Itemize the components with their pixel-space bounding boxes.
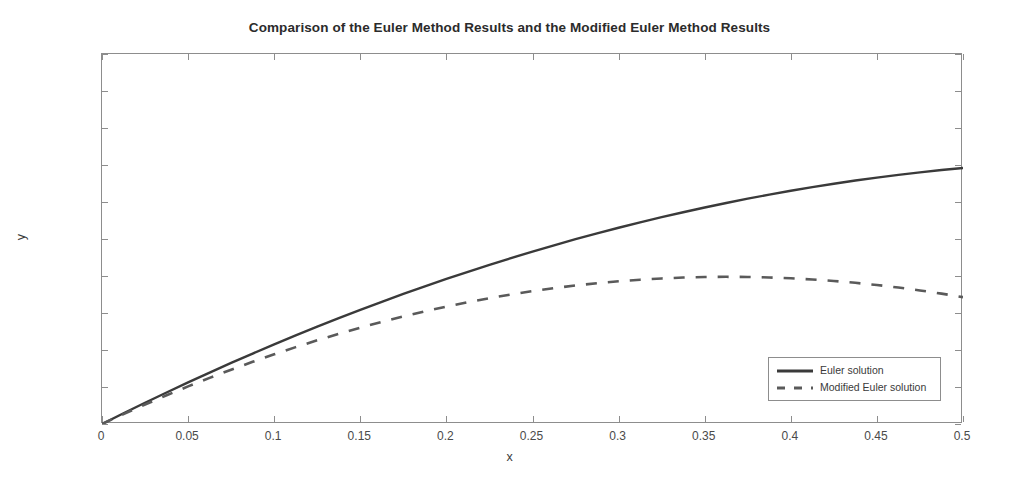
y-tick-right-10 [955, 424, 961, 425]
x-tick-label-6: 0.3 [609, 429, 626, 443]
x-tick-top-6 [619, 54, 620, 60]
y-tick-9 [102, 387, 108, 388]
dashed-line-swatch-icon [776, 383, 814, 393]
x-tick-label-4: 0.2 [437, 429, 454, 443]
x-tick-label-7: 0.35 [692, 429, 715, 443]
y-tick-3 [102, 165, 108, 166]
x-tick-3 [360, 416, 361, 422]
y-tick-right-4 [955, 202, 961, 203]
y-axis-label: y [14, 234, 28, 240]
y-tick-6 [102, 276, 108, 277]
x-tick-label-10: 0.5 [954, 429, 971, 443]
x-tick-label-3: 0.15 [348, 429, 371, 443]
x-tick-10 [963, 416, 964, 422]
y-tick-right-8 [955, 350, 961, 351]
y-tick-4 [102, 202, 108, 203]
legend-label-modified-euler: Modified Euler solution [820, 382, 926, 393]
x-tick-5 [533, 416, 534, 422]
series-line-2 [102, 277, 963, 424]
figure-canvas: Comparison of the Euler Method Results a… [0, 0, 1019, 490]
y-tick-right-2 [955, 128, 961, 129]
x-tick-top-4 [446, 54, 447, 60]
y-tick-7 [102, 313, 108, 314]
x-tick-top-3 [360, 54, 361, 60]
x-tick-label-8: 0.4 [781, 429, 798, 443]
x-tick-9 [877, 416, 878, 422]
x-tick-4 [446, 416, 447, 422]
x-tick-top-5 [533, 54, 534, 60]
x-axis-label: x [0, 450, 1019, 464]
x-tick-top-9 [877, 54, 878, 60]
x-tick-label-5: 0.25 [520, 429, 543, 443]
x-tick-top-7 [705, 54, 706, 60]
x-tick-top-8 [791, 54, 792, 60]
y-tick-right-9 [955, 387, 961, 388]
x-tick-top-1 [188, 54, 189, 60]
chart-legend: Euler solution Modified Euler solution [768, 357, 941, 401]
y-tick-8 [102, 350, 108, 351]
y-tick-10 [102, 424, 108, 425]
x-tick-label-1: 0.05 [175, 429, 198, 443]
x-tick-8 [791, 416, 792, 422]
x-tick-2 [274, 416, 275, 422]
x-tick-label-9: 0.45 [864, 429, 887, 443]
x-tick-1 [188, 416, 189, 422]
x-tick-6 [619, 416, 620, 422]
x-tick-label-0: 0 [98, 429, 105, 443]
x-tick-top-10 [963, 54, 964, 60]
solid-line-swatch-icon [776, 366, 814, 376]
y-tick-right-0 [955, 54, 961, 55]
legend-item-modified-euler: Modified Euler solution [776, 379, 934, 396]
legend-item-euler: Euler solution [776, 362, 934, 379]
y-tick-right-3 [955, 165, 961, 166]
y-tick-5 [102, 239, 108, 240]
y-tick-2 [102, 128, 108, 129]
legend-label-euler: Euler solution [820, 365, 884, 376]
page-title: Comparison of the Euler Method Results a… [0, 20, 1019, 35]
x-tick-label-2: 0.1 [265, 429, 282, 443]
y-tick-right-7 [955, 313, 961, 314]
x-tick-7 [705, 416, 706, 422]
y-tick-1 [102, 91, 108, 92]
y-tick-0 [102, 54, 108, 55]
y-tick-right-1 [955, 91, 961, 92]
y-tick-right-5 [955, 239, 961, 240]
y-tick-right-6 [955, 276, 961, 277]
x-tick-0 [102, 416, 103, 422]
x-tick-top-2 [274, 54, 275, 60]
